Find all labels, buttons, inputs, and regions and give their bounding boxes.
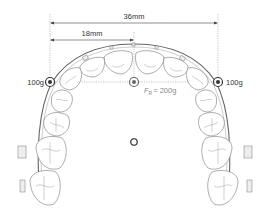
center-of-resistance-icon: [131, 139, 137, 145]
right-force-label: 100g: [226, 78, 243, 87]
dimension-18mm-label: 18mm: [82, 29, 103, 38]
resultant-subscript: R: [149, 90, 153, 96]
right-molar-tube: [244, 146, 252, 158]
diagram-canvas: 36mm 18mm: [0, 0, 272, 223]
left-posterior-teeth: [30, 90, 72, 205]
resultant-force-point: [130, 78, 139, 87]
dimension-36mm: 36mm: [50, 12, 218, 25]
left-force-point: [46, 78, 55, 87]
resultant-value: = 200g: [153, 86, 176, 95]
dimension-36mm-label: 36mm: [124, 12, 145, 21]
resultant-force-label: FR= 200g: [144, 86, 176, 96]
left-force-label: 100g: [27, 78, 44, 87]
left-molar-tube: [18, 146, 26, 158]
dental-arch-diagram: 36mm 18mm: [0, 0, 272, 223]
right-force-point: [214, 78, 223, 87]
right-posterior-teeth: [196, 90, 238, 205]
dimension-18mm: 18mm: [50, 29, 134, 42]
